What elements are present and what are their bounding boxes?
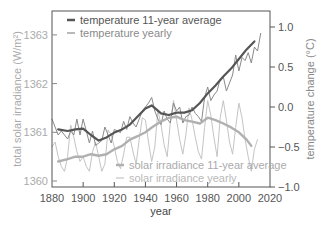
- x-tick-label: 2020: [258, 192, 282, 204]
- legend-label-solar-avg: solar irradiance 11-year average: [129, 159, 287, 171]
- x-tick-label: 1980: [195, 192, 219, 204]
- legend-label-solar-yearly: solar irradiance yearly: [129, 172, 237, 184]
- y-axis-left-title: total solar irradiance (W/m²): [11, 31, 23, 167]
- solar-avg-line: [58, 117, 251, 162]
- legend-label-temp-yearly: temperature yearly: [80, 27, 172, 39]
- x-tick-label: 1960: [164, 192, 188, 204]
- chart-figure: 18801900192019401960198020002020 1360136…: [0, 0, 323, 225]
- legend-bottom: solar irradiance 11-year average solar i…: [116, 159, 287, 184]
- y-axis-right-title: temperature change (°C): [304, 38, 316, 159]
- y-right-tick-label: 1.0: [278, 21, 293, 33]
- y-left-tick-label: 1361: [24, 126, 48, 138]
- x-tick-label: 2000: [227, 192, 251, 204]
- x-axis-title: year: [150, 205, 172, 217]
- legend-top: temperature 11-year average temperature …: [67, 14, 222, 39]
- y-right-tick-label: 0.0: [278, 101, 293, 113]
- x-tick-label: 1940: [133, 192, 157, 204]
- y-right-tick-label: −0.5: [278, 141, 300, 153]
- plot-lines: [52, 33, 261, 171]
- legend-label-temp-avg: temperature 11-year average: [80, 14, 222, 26]
- y-right-tick-label: −1.0: [278, 181, 300, 193]
- y-left-tick-label: 1362: [24, 78, 48, 90]
- x-axis: 18801900192019401960198020002020: [40, 182, 282, 204]
- x-tick-label: 1880: [40, 192, 64, 204]
- y-right-tick-label: 0.5: [278, 61, 293, 73]
- x-tick-label: 1900: [71, 192, 95, 204]
- y-left-tick-label: 1363: [24, 29, 48, 41]
- y-left-tick-label: 1360: [24, 175, 48, 187]
- x-tick-label: 1920: [102, 192, 126, 204]
